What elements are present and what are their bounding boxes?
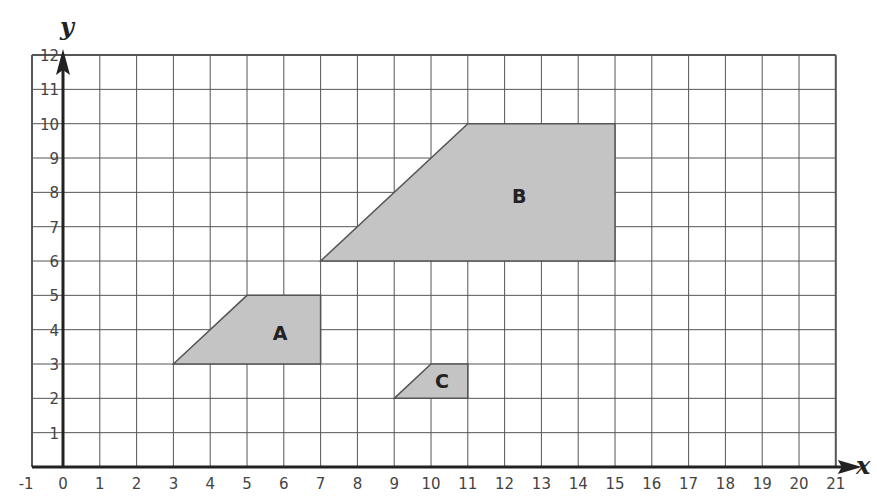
- x-axis-title: x: [855, 451, 871, 480]
- x-tick-label: 18: [716, 475, 735, 493]
- y-tick-label: 5: [49, 287, 59, 305]
- y-tick-label: 7: [49, 219, 59, 237]
- y-tick-label: 6: [49, 253, 59, 271]
- x-tick-label: 20: [789, 475, 808, 493]
- x-tick-label: 21: [826, 475, 845, 493]
- y-tick-label: 10: [40, 116, 59, 134]
- y-tick-label: 1: [49, 425, 59, 443]
- x-tick-label: 17: [679, 475, 698, 493]
- tick-labels: -101234567891011121314151617181920211234…: [19, 47, 846, 493]
- shape-label-c: C: [435, 370, 449, 392]
- x-tick-label: 3: [169, 475, 179, 493]
- x-tick-label: 6: [279, 475, 289, 493]
- y-tick-label: 2: [49, 390, 59, 408]
- x-tick-label: 15: [605, 475, 624, 493]
- y-tick-label: 8: [49, 184, 59, 202]
- x-tick-label: 9: [389, 475, 399, 493]
- coordinate-grid: ABC -10123456789101112131415161718192021…: [0, 0, 877, 499]
- x-tick-label: 11: [458, 475, 477, 493]
- shape-label-b: B: [512, 185, 526, 207]
- y-tick-label: 4: [49, 322, 59, 340]
- shape-c: [394, 364, 468, 398]
- x-tick-label: 0: [58, 475, 68, 493]
- y-tick-label: 9: [49, 150, 59, 168]
- x-tick-label: 2: [132, 475, 142, 493]
- x-tick-label: 14: [569, 475, 588, 493]
- x-tick-label: 13: [532, 475, 551, 493]
- x-tick-label: -1: [19, 475, 34, 493]
- y-tick-label: 12: [40, 47, 59, 65]
- y-axis-title: y: [59, 12, 76, 41]
- x-tick-label: 10: [421, 475, 440, 493]
- x-tick-label: 8: [353, 475, 363, 493]
- x-tick-label: 12: [495, 475, 514, 493]
- x-tick-label: 16: [642, 475, 661, 493]
- x-tick-label: 1: [95, 475, 105, 493]
- x-tick-label: 5: [242, 475, 252, 493]
- x-tick-label: 4: [205, 475, 215, 493]
- y-tick-label: 3: [49, 356, 59, 374]
- x-tick-label: 19: [753, 475, 772, 493]
- shape-label-a: A: [273, 322, 288, 344]
- y-tick-label: 11: [40, 81, 59, 99]
- x-tick-label: 7: [316, 475, 326, 493]
